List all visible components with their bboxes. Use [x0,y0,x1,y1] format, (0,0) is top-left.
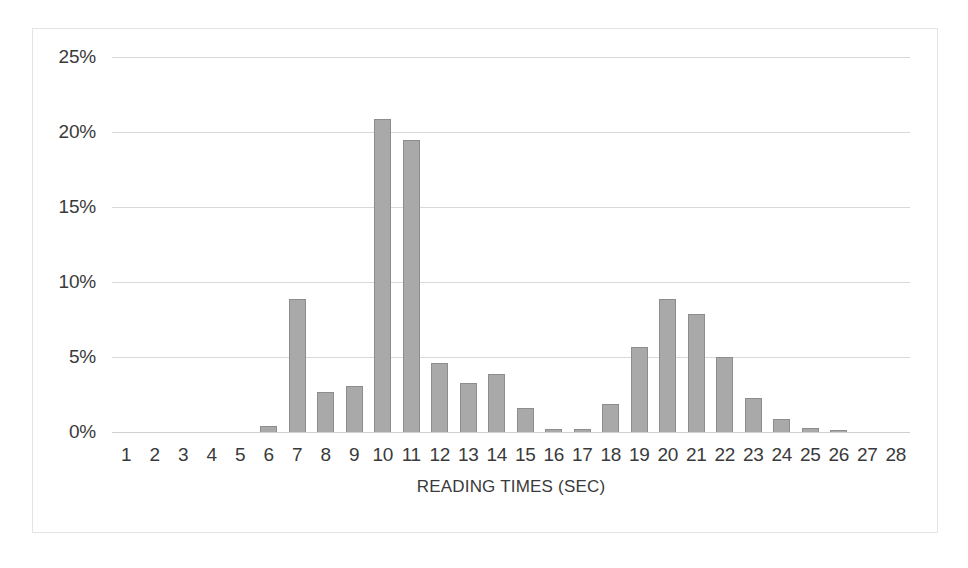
bar [602,404,619,433]
x-tick-label: 1 [112,441,141,469]
bar [289,299,306,433]
x-tick-label: 19 [625,441,654,469]
gridline [112,432,910,433]
y-axis: 25%20%15%10%5%0% [40,57,104,432]
y-tick-label: 10% [59,271,96,293]
y-tick-label: 0% [69,421,96,443]
bars-group [112,57,910,432]
bar [745,398,762,433]
x-tick-label: 13 [454,441,483,469]
bar [773,419,790,433]
x-tick-label: 5 [226,441,255,469]
x-tick-label: 16 [540,441,569,469]
y-tick-label: 25% [59,46,96,68]
bar-slot [768,57,797,432]
x-axis: 1234567891011121314151617181920212223242… [112,441,910,469]
bar [688,314,705,433]
bar-slot [255,57,284,432]
x-tick-label: 9 [340,441,369,469]
x-tick-label: 25 [796,441,825,469]
x-tick-label: 6 [255,441,284,469]
x-tick-label: 2 [141,441,170,469]
bar [317,392,334,433]
x-tick-label: 28 [882,441,911,469]
bar-slot [369,57,398,432]
x-tick-label: 20 [654,441,683,469]
bar [488,374,505,433]
bar [659,299,676,433]
bar-slot [568,57,597,432]
bar [830,430,847,432]
bar [460,383,477,433]
bar-slot [853,57,882,432]
bar [346,386,363,433]
bar-slot [796,57,825,432]
bar [631,347,648,433]
x-tick-label: 24 [768,441,797,469]
bar [403,140,420,433]
y-tick-label: 20% [59,121,96,143]
x-tick-label: 3 [169,441,198,469]
bar-slot [454,57,483,432]
bar [517,408,534,432]
bar-slot [511,57,540,432]
bar-slot [169,57,198,432]
x-tick-label: 14 [483,441,512,469]
y-tick-label: 5% [69,346,96,368]
bar-slot [540,57,569,432]
x-tick-label: 11 [397,441,426,469]
x-axis-title: READING TIMES (SEC) [112,477,910,497]
x-tick-label: 26 [825,441,854,469]
x-tick-label: 4 [198,441,227,469]
bar-slot [340,57,369,432]
bar-slot [283,57,312,432]
bar [260,426,277,432]
chart-container: 25%20%15%10%5%0% 12345678910111213141516… [0,0,968,568]
bar-slot [112,57,141,432]
x-tick-label: 10 [369,441,398,469]
bar-slot [226,57,255,432]
bar [374,119,391,433]
x-tick-label: 12 [426,441,455,469]
bar [431,363,448,432]
bar-slot [682,57,711,432]
y-tick-label: 15% [59,196,96,218]
bar-slot [397,57,426,432]
bar-slot [654,57,683,432]
bar-slot [141,57,170,432]
bar-slot [625,57,654,432]
x-tick-label: 8 [312,441,341,469]
bar [802,428,819,433]
x-tick-label: 22 [711,441,740,469]
x-tick-label: 15 [511,441,540,469]
bar-slot [312,57,341,432]
bar-slot [882,57,911,432]
bar [716,357,733,432]
bar-slot [483,57,512,432]
x-tick-label: 7 [283,441,312,469]
x-tick-label: 18 [597,441,626,469]
bar [574,429,591,432]
x-tick-label: 23 [739,441,768,469]
bar-slot [426,57,455,432]
x-tick-label: 21 [682,441,711,469]
bar [545,429,562,432]
x-tick-label: 27 [853,441,882,469]
bar-slot [739,57,768,432]
bar-slot [825,57,854,432]
bar-slot [711,57,740,432]
bar-slot [198,57,227,432]
x-tick-label: 17 [568,441,597,469]
bar-slot [597,57,626,432]
